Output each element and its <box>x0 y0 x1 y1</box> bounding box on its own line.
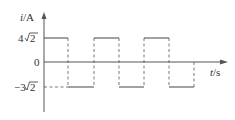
square-wave-chart: i/A t/s 4 2 0 −3 2 <box>0 0 235 120</box>
svg-text:4: 4 <box>18 32 24 44</box>
y-tick-zero: 0 <box>34 56 40 68</box>
svg-text:2: 2 <box>30 81 36 93</box>
x-axis-arrow-icon <box>220 60 228 65</box>
svg-text:−3: −3 <box>14 81 26 93</box>
y-axis-arrow-icon <box>42 12 47 19</box>
y-tick-low: −3 2 <box>14 81 38 93</box>
svg-text:2: 2 <box>30 32 36 44</box>
x-axis-label: t/s <box>210 66 220 78</box>
y-axis-label: i/A <box>20 11 34 23</box>
y-tick-high: 4 2 <box>18 32 38 44</box>
